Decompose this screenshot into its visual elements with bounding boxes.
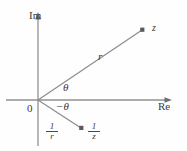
imaginary-axis-label: Im — [29, 10, 41, 21]
ray-to-z — [38, 30, 142, 100]
angle-negative-theta-label: −θ — [56, 101, 69, 112]
one-over-r-denominator: r — [46, 131, 58, 141]
point-marker-z — [140, 28, 144, 32]
one-over-z-denominator: z — [88, 131, 100, 141]
origin-label: 0 — [27, 103, 33, 114]
point-z-label: z — [152, 23, 156, 33]
radius-label: r — [98, 51, 102, 62]
one-over-z-numerator: 1 — [88, 122, 100, 131]
one-over-r-numerator: 1 — [46, 122, 58, 131]
complex-plane-diagram: Im Re 0 r θ −θ z 1 r 1 z — [0, 0, 187, 151]
point-marker-one-over-z — [79, 126, 83, 130]
one-over-r-label: 1 r — [46, 122, 58, 142]
one-over-z-label: 1 z — [88, 122, 100, 142]
real-axis-label: Re — [158, 101, 170, 112]
angle-theta-label: θ — [63, 82, 68, 93]
